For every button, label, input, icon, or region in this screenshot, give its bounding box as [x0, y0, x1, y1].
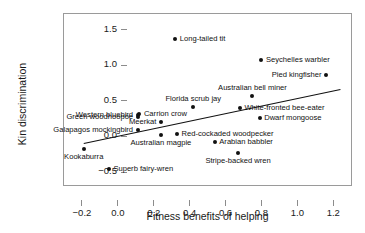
x-tick-label: 0.2	[134, 207, 174, 218]
x-tick-mark	[153, 200, 154, 206]
data-point[interactable]	[136, 128, 140, 132]
data-point-label: Meerkat	[129, 118, 156, 126]
data-point[interactable]	[238, 106, 242, 110]
data-point-label: Green woodhoopoe	[66, 113, 133, 121]
data-point-label: Stripe-backed wren	[205, 157, 270, 165]
data-point[interactable]	[258, 116, 262, 120]
data-point[interactable]	[213, 140, 217, 144]
data-point-label: Dwarf mongoose	[264, 114, 321, 122]
x-tick-mark	[333, 200, 334, 206]
data-point[interactable]	[324, 73, 328, 77]
data-point[interactable]	[82, 147, 86, 151]
data-point-label: Superb fairy-wren	[113, 165, 173, 173]
data-point-label: Arabian babbler	[219, 138, 273, 146]
x-tick-mark	[297, 200, 298, 206]
x-tick-label: 1.0	[277, 207, 317, 218]
data-point[interactable]	[159, 120, 163, 124]
x-tick-mark	[261, 200, 262, 206]
x-tick-label: 0.4	[170, 207, 210, 218]
plot-area: −0.50.00.51.01.5 −0.20.00.20.40.60.81.01…	[63, 13, 352, 186]
data-point[interactable]	[236, 151, 240, 155]
x-tick-label: 0.6	[206, 207, 246, 218]
data-point-label: Kookaburra	[64, 153, 103, 161]
x-tick-mark	[117, 200, 118, 206]
x-tick-mark	[225, 200, 226, 206]
x-tick-label: 0.8	[241, 207, 281, 218]
data-point-label: Seychelles warbler	[266, 56, 330, 64]
data-point-label: Australian magpie	[131, 139, 192, 147]
x-tick-mark	[81, 200, 82, 206]
data-point-label: White-fronted bee-eater	[244, 104, 324, 112]
y-axis-title: Kin discrimination	[16, 34, 28, 174]
data-point-label: Long-tailed tit	[180, 35, 226, 43]
scatter-plot-figure: Kin discrimination Fitness benefits of h…	[0, 0, 365, 233]
data-point-label: Galapagos mockingbird	[53, 126, 133, 134]
data-point[interactable]	[175, 132, 179, 136]
data-point-label: Pied kingfisher	[272, 71, 322, 79]
x-tick-label: 0.0	[98, 207, 138, 218]
x-tick-label: −0.2	[62, 207, 102, 218]
data-point[interactable]	[159, 133, 163, 137]
data-point-label: Red-cockaded woodpecker	[182, 130, 274, 138]
x-tick-mark	[189, 200, 190, 206]
data-point-label: Florida scrub jay	[165, 95, 221, 103]
data-point-label: Australian bell miner	[218, 84, 287, 92]
x-tick-label: 1.2	[313, 207, 353, 218]
